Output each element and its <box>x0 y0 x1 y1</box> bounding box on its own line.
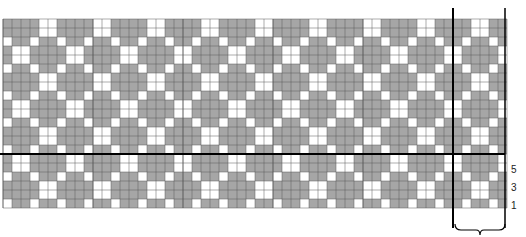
row-label-1: 1 <box>511 200 517 211</box>
row-label-5: 5 <box>511 164 517 175</box>
row-label-3: 3 <box>511 182 517 193</box>
repeat-bracket <box>455 224 505 235</box>
knitting-chart <box>0 0 526 237</box>
